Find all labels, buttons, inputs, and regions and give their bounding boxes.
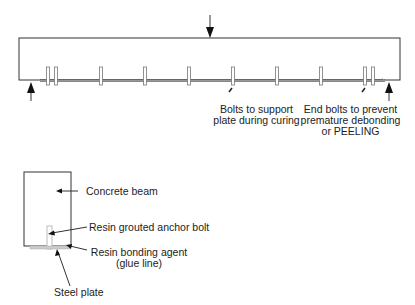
- end-bolts-line-3: or PEELING: [288, 126, 413, 137]
- leader-steel-plate-icon: [55, 249, 70, 286]
- steel-plate-elevation: [40, 79, 385, 82]
- support-arrow-right-icon: [385, 82, 393, 101]
- bolt: [47, 67, 50, 85]
- concrete-beam-label: Concrete beam: [86, 186, 158, 197]
- anchor-bolt-section: [47, 226, 52, 249]
- bolt: [364, 67, 367, 85]
- bonding-agent-line-2: (glue line): [88, 258, 190, 269]
- bolt: [232, 67, 235, 85]
- bolt: [188, 67, 191, 85]
- bolt: [372, 67, 375, 85]
- bolt: [144, 67, 147, 85]
- pointer-end-bolt-icon: [362, 88, 365, 92]
- anchor-bolt-label: Resin grouted anchor bolt: [89, 222, 209, 233]
- bolt: [100, 67, 103, 85]
- support-arrow-left-icon: [27, 82, 35, 101]
- bolt: [55, 67, 58, 85]
- pointer-support-bolt-icon: [229, 88, 232, 92]
- steel-plate-label: Steel plate: [54, 287, 104, 298]
- bolt: [276, 67, 279, 85]
- bonding-agent-label: Resin bonding agent (glue line): [88, 247, 190, 269]
- steel-plate-section: [30, 246, 70, 249]
- bolt: [320, 67, 323, 85]
- diagram-canvas: [0, 0, 415, 305]
- beam-elevation: [19, 38, 400, 80]
- end-bolts-label: End bolts to prevent premature debonding…: [288, 104, 413, 137]
- load-arrow-icon: [206, 15, 214, 38]
